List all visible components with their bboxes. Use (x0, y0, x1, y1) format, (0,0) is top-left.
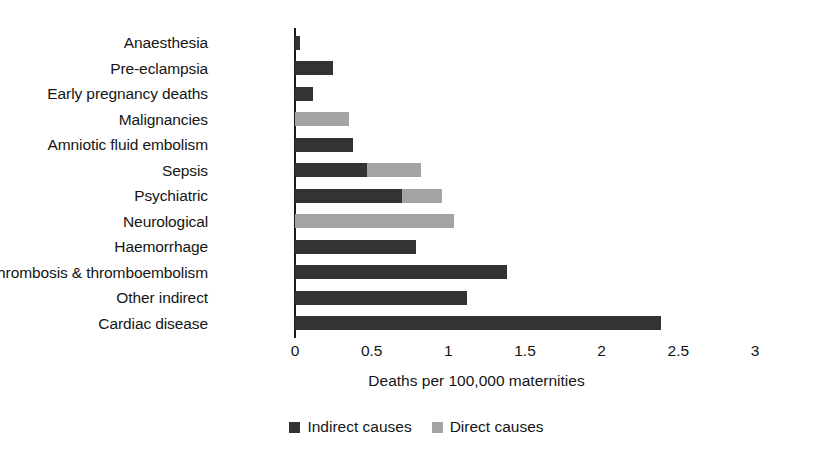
bar-row: Cardiac disease (295, 311, 755, 337)
maternal-mortality-bar-chart: AnaesthesiaPre-eclampsiaEarly pregnancy … (0, 0, 833, 464)
bar-indirect-causes (295, 87, 313, 101)
chart-legend: Indirect causesDirect causes (0, 418, 833, 436)
bar-row: Pre-eclampsia (295, 56, 755, 82)
category-label: Neurological (123, 209, 208, 235)
category-label: Thrombosis & thromboembolism (0, 260, 208, 286)
x-tick-label: 1 (444, 342, 453, 360)
bar-row: Haemorrhage (295, 234, 755, 260)
legend-swatch-indirect-icon (289, 422, 300, 433)
category-label: Pre-eclampsia (110, 56, 208, 82)
legend-item[interactable]: Indirect causes (289, 418, 411, 436)
bar-direct-causes (295, 112, 349, 126)
x-tick-label: 2 (597, 342, 606, 360)
category-label: Sepsis (162, 158, 208, 184)
category-label: Malignancies (119, 107, 208, 133)
x-axis-title: Deaths per 100,000 maternities (0, 372, 833, 390)
category-label: Anaesthesia (124, 30, 208, 56)
category-label: Early pregnancy deaths (47, 81, 208, 107)
bar-indirect-causes (295, 316, 661, 330)
x-axis: 00.511.522.53 (295, 336, 755, 337)
bar-row: Other indirect (295, 285, 755, 311)
category-label: Psychiatric (134, 183, 208, 209)
bar-indirect-causes (295, 240, 416, 254)
bar-row: Neurological (295, 209, 755, 235)
bar-row: Early pregnancy deaths (295, 81, 755, 107)
bar-indirect-causes (295, 265, 507, 279)
bar-indirect-causes (295, 189, 402, 203)
legend-item[interactable]: Direct causes (432, 418, 544, 436)
bar-indirect-causes (295, 138, 353, 152)
legend-label: Direct causes (450, 418, 544, 436)
bar-direct-causes (295, 214, 454, 228)
bar-row: Amniotic fluid embolism (295, 132, 755, 158)
category-label: Cardiac disease (98, 311, 208, 337)
category-label: Amniotic fluid embolism (47, 132, 208, 158)
category-label: Other indirect (116, 285, 208, 311)
bar-indirect-causes (295, 291, 467, 305)
bar-row: Psychiatric (295, 183, 755, 209)
bar-indirect-causes (295, 163, 367, 177)
bar-row: Anaesthesia (295, 30, 755, 56)
x-tick-label: 0 (291, 342, 300, 360)
bar-indirect-causes (295, 61, 333, 75)
x-tick-label: 0.5 (361, 342, 383, 360)
bar-indirect-causes (295, 36, 300, 50)
plot-area: AnaesthesiaPre-eclampsiaEarly pregnancy … (295, 30, 755, 336)
category-label: Haemorrhage (114, 234, 208, 260)
x-tick-label: 1.5 (514, 342, 536, 360)
bar-row: Malignancies (295, 107, 755, 133)
bar-row: Thrombosis & thromboembolism (295, 260, 755, 286)
x-tick-label: 2.5 (668, 342, 690, 360)
legend-label: Indirect causes (307, 418, 411, 436)
x-tick-label: 3 (751, 342, 760, 360)
bar-row: Sepsis (295, 158, 755, 184)
legend-swatch-direct-icon (432, 422, 443, 433)
